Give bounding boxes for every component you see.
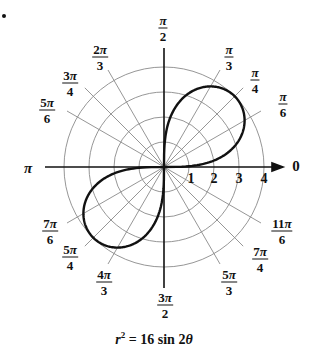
fraction-numerator: π [278, 90, 287, 105]
fraction-numerator: π [158, 14, 167, 29]
angle-label-text: π [24, 160, 32, 176]
angle-label-5pi_4: 5π4 [62, 243, 78, 272]
angle-label-11pi_6: 11π6 [271, 217, 292, 246]
caption-theta: θ [185, 332, 192, 347]
equation-caption: r2 = 16 sin 2θ [115, 330, 192, 348]
fraction-denominator: 4 [252, 81, 259, 95]
fraction-denominator: 2 [162, 306, 169, 320]
angle-label-pi_3: π3 [224, 43, 233, 72]
angle-label-7pi_4: 7π4 [252, 245, 268, 274]
fraction-denominator: 2 [160, 29, 167, 43]
angle-label-2pi_3: 2π3 [92, 43, 108, 72]
fraction-numerator: 7π [252, 245, 268, 260]
angle-label-5pi_3: 5π3 [221, 268, 237, 297]
angle-label-pi: π [24, 162, 32, 175]
fraction-denominator: 6 [47, 232, 54, 246]
fraction-numerator: π [224, 43, 233, 58]
angle-label-4pi_3: 4π3 [96, 268, 112, 297]
fraction-numerator: 11π [271, 217, 292, 232]
fraction-numerator: 5π [221, 268, 237, 283]
fraction-denominator: 4 [67, 84, 74, 98]
fraction-denominator: 4 [257, 260, 264, 274]
angle-label-pi_2: π2 [158, 14, 167, 43]
radial-tick-4: 4 [261, 171, 268, 187]
radial-tick-2: 2 [211, 171, 218, 187]
fraction-denominator: 3 [226, 283, 233, 297]
fraction-numerator: 3π [157, 291, 173, 306]
radial-tick-3: 3 [236, 171, 243, 187]
angle-label-pi_4: π4 [250, 66, 259, 95]
grid-ray [85, 88, 164, 167]
angle-label-0: 0 [292, 160, 300, 173]
fraction-denominator: 3 [226, 58, 233, 72]
grid-ray [164, 167, 243, 246]
fraction-numerator: 2π [92, 43, 108, 58]
angle-label-5pi_6: 5π6 [39, 96, 55, 125]
angle-label-7pi_6: 7π6 [42, 217, 58, 246]
fraction-numerator: 5π [62, 243, 78, 258]
fraction-numerator: 5π [39, 96, 55, 111]
angle-label-pi_6: π6 [278, 90, 287, 119]
angle-label-3pi_2: 3π2 [157, 291, 173, 320]
fraction-denominator: 6 [279, 232, 286, 246]
angle-label-3pi_4: 3π4 [62, 69, 78, 98]
fraction-denominator: 6 [280, 105, 287, 119]
fraction-denominator: 6 [44, 111, 51, 125]
grid-ray [164, 88, 243, 167]
fraction-denominator: 4 [67, 258, 74, 272]
fraction-numerator: 3π [62, 69, 78, 84]
fraction-denominator: 3 [97, 58, 104, 72]
fraction-denominator: 3 [101, 283, 108, 297]
grid-ray [85, 167, 164, 246]
arrowhead-icon [272, 163, 283, 171]
fraction-numerator: 4π [96, 268, 112, 283]
angle-label-text: 0 [292, 158, 300, 174]
caption-rhs: = 16 sin 2 [125, 332, 185, 347]
fraction-numerator: 7π [42, 217, 58, 232]
fraction-numerator: π [250, 66, 259, 81]
radial-tick-1: 1 [188, 171, 195, 187]
